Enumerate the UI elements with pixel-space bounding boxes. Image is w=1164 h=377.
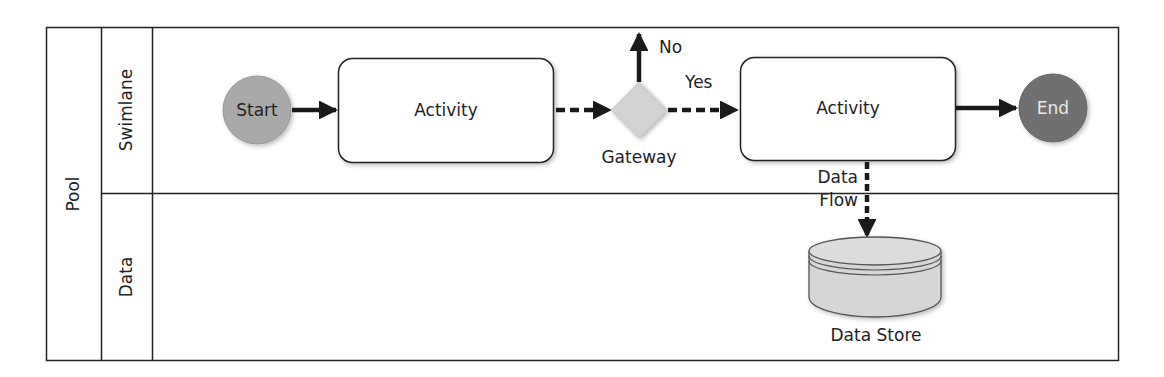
- gateway-no-label: No: [659, 37, 682, 57]
- data-flow-label-line2: Flow: [819, 190, 858, 210]
- gateway-yes-label: Yes: [684, 72, 713, 92]
- pool: Pool Swimlane Data: [47, 28, 1119, 361]
- pool-label: Pool: [63, 176, 83, 211]
- data-store-label: Data Store: [831, 325, 922, 345]
- activity-1-label: Activity: [414, 100, 478, 120]
- gateway-label: Gateway: [601, 147, 676, 167]
- end-label: End: [1037, 98, 1069, 118]
- end-event[interactable]: End: [1019, 74, 1087, 142]
- start-label: Start: [236, 100, 278, 120]
- start-event[interactable]: Start: [223, 76, 291, 144]
- data-store[interactable]: [809, 237, 941, 317]
- activity-2[interactable]: Activity: [741, 58, 956, 161]
- activity-2-label: Activity: [816, 98, 880, 118]
- lane-label-swimlane: Swimlane: [116, 69, 136, 151]
- lane-label-data: Data: [116, 257, 136, 298]
- bpmn-diagram: Pool Swimlane Data Start Activity Gatewa…: [0, 0, 1164, 377]
- activity-1[interactable]: Activity: [339, 59, 554, 163]
- data-flow-label-line1: Data: [817, 167, 858, 187]
